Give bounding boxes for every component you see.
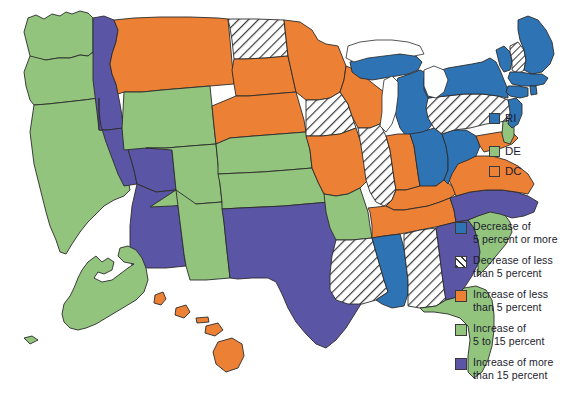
map-legend: Decrease of 5 percent or more Decrease o… bbox=[455, 220, 570, 390]
legend-label-decrease-less-than-5: Decrease of less than 5 percent bbox=[473, 254, 553, 279]
legend-line2: 5 to 15 percent bbox=[473, 335, 545, 347]
legend-line1: Increase of more bbox=[473, 356, 553, 368]
legend-label-increase-less-than-5: Increase of less than 5 percent bbox=[473, 288, 548, 313]
callout-dc: DC bbox=[489, 166, 522, 177]
state-HI-maui bbox=[205, 323, 223, 336]
legend-item-increase-more-than-15: Increase of more than 15 percent bbox=[455, 356, 570, 381]
state-WY bbox=[122, 86, 216, 150]
callout-ri: RI bbox=[489, 113, 517, 124]
legend-line2: than 5 percent bbox=[473, 301, 542, 313]
legend-item-increase-less-than-5: Increase of less than 5 percent bbox=[455, 288, 570, 313]
state-RI-onmap bbox=[530, 86, 537, 95]
legend-line1: Increase of less bbox=[473, 288, 548, 300]
callout-dc-swatch bbox=[489, 166, 500, 177]
legend-swatch-increase-less-than-5 bbox=[455, 290, 467, 302]
state-MA bbox=[508, 72, 548, 86]
legend-item-decrease-5-or-more: Decrease of 5 percent or more bbox=[455, 220, 570, 245]
legend-line2: than 5 percent bbox=[473, 267, 542, 279]
legend-swatch-increase-5-to-15 bbox=[455, 324, 467, 336]
legend-swatch-decrease-5-or-more bbox=[455, 222, 467, 234]
state-WA bbox=[24, 11, 93, 60]
legend-line2: 5 percent or more bbox=[473, 233, 558, 245]
alaska-aleutians bbox=[24, 336, 38, 344]
callout-ri-swatch bbox=[489, 113, 500, 124]
state-CT bbox=[506, 86, 528, 98]
state-OR bbox=[24, 52, 99, 105]
state-HI-kauai bbox=[154, 292, 166, 305]
state-HI-molokai bbox=[196, 317, 209, 323]
legend-item-increase-5-to-15: Increase of 5 to 15 percent bbox=[455, 322, 570, 347]
state-KS bbox=[216, 132, 312, 174]
legend-line1: Increase of bbox=[473, 322, 526, 334]
callout-de-swatch bbox=[489, 146, 500, 157]
legend-swatch-increase-more-than-15 bbox=[455, 358, 467, 370]
state-HI-bigisland bbox=[213, 338, 244, 372]
state-ND bbox=[228, 19, 288, 59]
state-AK bbox=[62, 246, 148, 330]
legend-label-increase-more-than-15: Increase of more than 15 percent bbox=[473, 356, 553, 381]
legend-line1: Decrease of less bbox=[473, 254, 553, 266]
legend-line2: than 15 percent bbox=[473, 369, 547, 381]
callout-de-label: DE bbox=[505, 146, 521, 157]
state-HI-oahu bbox=[175, 305, 190, 318]
state-SD bbox=[232, 56, 296, 96]
legend-label-decrease-5-or-more: Decrease of 5 percent or more bbox=[473, 220, 558, 245]
legend-item-decrease-less-than-5: Decrease of less than 5 percent bbox=[455, 254, 570, 279]
legend-swatch-decrease-less-than-5 bbox=[455, 256, 467, 268]
callout-ri-label: RI bbox=[505, 113, 517, 124]
legend-label-increase-5-to-15: Increase of 5 to 15 percent bbox=[473, 322, 545, 347]
choropleth-map-figure: RI DE DC Decrease of 5 percent or more D… bbox=[0, 0, 570, 409]
callout-dc-label: DC bbox=[505, 166, 522, 177]
state-MT bbox=[110, 17, 234, 94]
state-OK bbox=[218, 168, 330, 209]
callout-de: DE bbox=[489, 146, 521, 157]
lake-michigan bbox=[380, 76, 398, 132]
legend-line1: Decrease of bbox=[473, 220, 531, 232]
